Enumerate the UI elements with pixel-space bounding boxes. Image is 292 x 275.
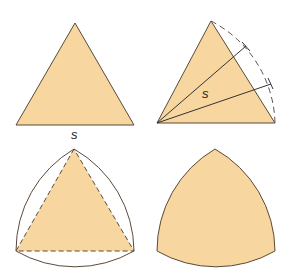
dashed-triangle [16, 149, 134, 251]
panel-arc-construction: s [157, 21, 275, 123]
reuleaux-diagram: s s [0, 0, 292, 275]
reuleaux-shape [157, 149, 275, 267]
tick-mark-1 [242, 42, 250, 51]
triangle-shape [16, 23, 134, 125]
panel-triangle-with-arcs [16, 149, 134, 267]
tick-mark-2 [268, 78, 273, 89]
radius-label: s [202, 86, 209, 101]
panel-reuleaux-triangle [157, 149, 275, 267]
side-label: s [71, 127, 78, 142]
panel-equilateral-triangle: s [16, 23, 134, 142]
